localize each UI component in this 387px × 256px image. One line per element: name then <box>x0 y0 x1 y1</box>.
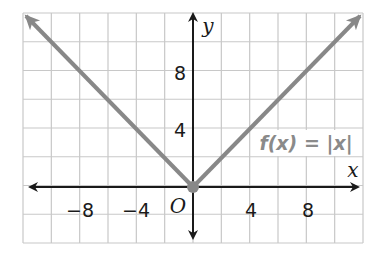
function-label: f(x) = |x| <box>259 132 352 155</box>
vertex-point <box>187 181 199 193</box>
x-tick-label: −4 <box>122 199 150 221</box>
y-axis-label: y <box>201 14 214 38</box>
x-axis-label: x <box>347 158 358 182</box>
x-tick-label: −8 <box>66 199 94 221</box>
y-tick-label: 4 <box>174 119 186 141</box>
x-tick-label: 8 <box>302 199 314 221</box>
origin-label: O <box>170 194 186 218</box>
x-tick-label: 4 <box>245 199 257 221</box>
graph-canvas: −8 −4 4 8 8 4 O x y f(x) = |x| <box>0 0 387 256</box>
y-tick-label: 8 <box>174 62 186 84</box>
